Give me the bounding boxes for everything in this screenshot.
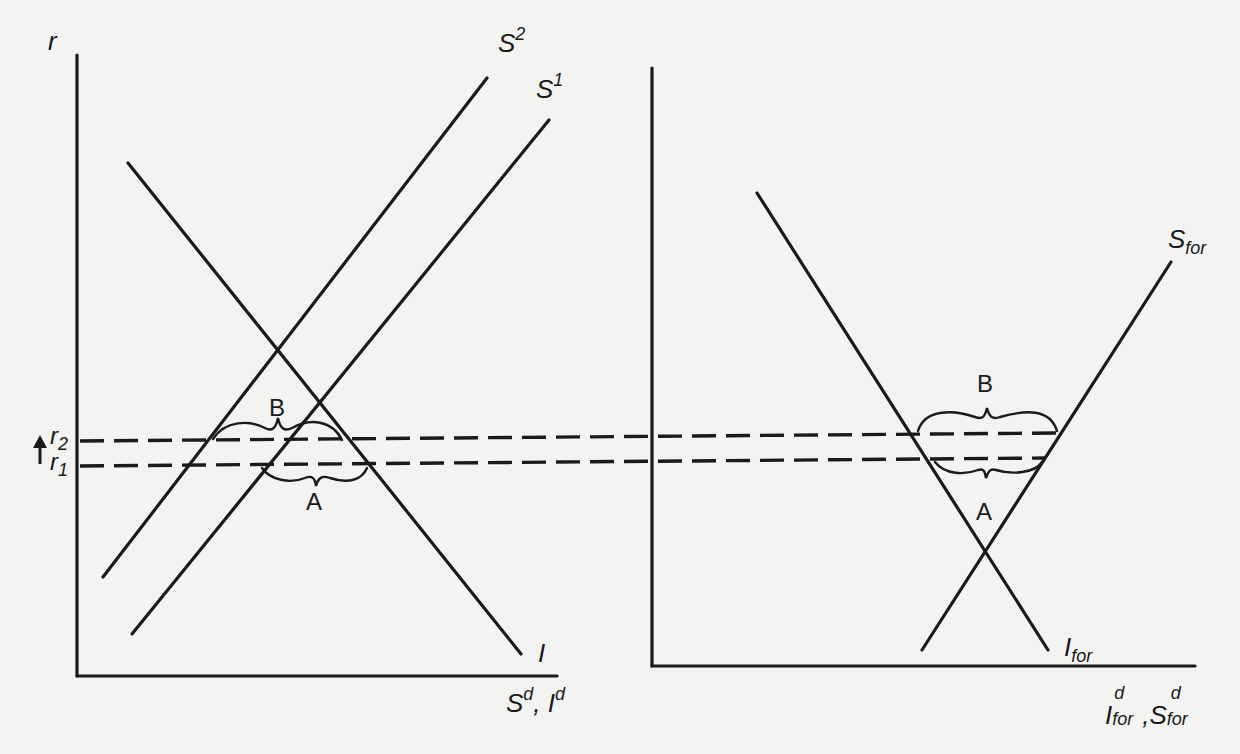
- label-s1-sup: 1: [553, 70, 563, 90]
- x-label-i: I: [548, 688, 555, 718]
- right-brace-b: [918, 408, 1057, 431]
- label-r1: r1: [50, 450, 68, 474]
- left-x-axis-label: Sd, Id: [506, 690, 565, 716]
- curve-ifor: [757, 193, 1048, 650]
- x-label-ifor-sub: for: [1112, 710, 1133, 728]
- diagram-canvas: r S2 S1 I r2 r1 B A Sd, Id Sfor Ifor B A…: [0, 0, 1240, 754]
- left-y-axis-label: r: [48, 28, 57, 54]
- x-label-sfor-sub: for: [1167, 710, 1188, 728]
- label-s2: S2: [498, 30, 525, 56]
- x-label-sfor-sup: d: [1171, 684, 1181, 702]
- left-brace-b: [213, 418, 342, 440]
- label-i: I: [538, 640, 545, 666]
- label-sfor-sub: for: [1185, 238, 1206, 258]
- left-label-b: B: [269, 396, 285, 420]
- left-brace-a: [262, 468, 367, 486]
- label-sfor: Sfor: [1168, 226, 1206, 252]
- arrow-up-icon: [33, 435, 47, 464]
- left-label-a: A: [306, 490, 322, 514]
- right-brace-a: [935, 462, 1042, 478]
- label-s2-main: S: [498, 28, 515, 58]
- curve-i: [128, 163, 521, 654]
- label-r2-main: r: [50, 422, 58, 449]
- curve-s2: [103, 78, 487, 577]
- x-label-ifor-sup: d: [1114, 684, 1124, 702]
- r1-dashed-line: [80, 458, 1045, 466]
- right-label-b: B: [977, 372, 993, 396]
- x-label-s-sup: d: [523, 684, 533, 704]
- label-r2: r2: [50, 424, 68, 448]
- curve-sfor: [922, 262, 1171, 650]
- x-label-i-sup: d: [555, 684, 565, 704]
- right-x-axis-label: Idfor,Sdfor: [1105, 698, 1197, 728]
- x-label-sfor: S: [1149, 700, 1166, 730]
- label-s1-main: S: [536, 74, 553, 104]
- x-label-s: S: [506, 688, 523, 718]
- x-label-sep: ,: [533, 688, 547, 718]
- curve-s1: [132, 120, 549, 634]
- label-ifor: Ifor: [1064, 634, 1092, 660]
- label-sfor-main: S: [1168, 224, 1185, 254]
- diagram-lines: [0, 0, 1240, 754]
- label-ifor-sub: for: [1071, 646, 1092, 666]
- right-label-a: A: [976, 500, 992, 524]
- label-s1: S1: [536, 76, 563, 102]
- label-r1-main: r: [50, 448, 58, 475]
- x-label-ifor: I: [1105, 700, 1112, 730]
- label-s2-sup: 2: [515, 24, 525, 44]
- label-r1-sub: 1: [58, 460, 68, 480]
